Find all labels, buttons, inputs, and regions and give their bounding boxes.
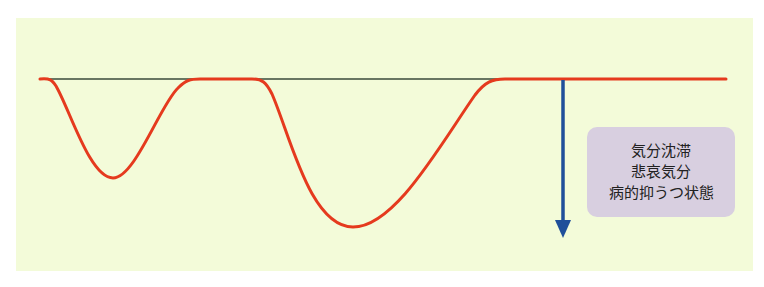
label-line-1: 気分沈滞 (631, 141, 691, 162)
label-line-2: 悲哀気分 (631, 162, 691, 183)
down-arrow-head-icon (555, 220, 571, 238)
label-line-3: 病的抑うつ状態 (609, 183, 714, 204)
depression-label-box: 気分沈滞 悲哀気分 病的抑うつ状態 (587, 127, 735, 217)
